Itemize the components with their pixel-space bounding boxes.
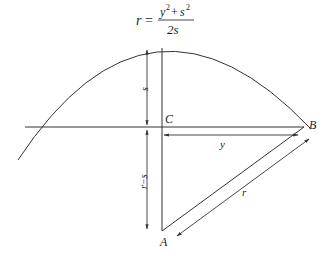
formula-denominator: 2s xyxy=(167,22,179,37)
formula-num-y-exp: 2 xyxy=(166,3,170,12)
point-label-C: C xyxy=(165,112,174,126)
formula-num-plus: + xyxy=(171,5,178,19)
formula-num-s: s xyxy=(180,5,185,19)
formula: r = y 2 + s 2 2s xyxy=(136,3,194,37)
label-r: r xyxy=(242,186,247,198)
radius-line-AB xyxy=(162,127,304,231)
point-label-A: A xyxy=(159,235,168,249)
formula-equals: = xyxy=(145,13,153,28)
formula-lhs: r xyxy=(136,13,142,28)
formula-num-s-exp: 2 xyxy=(186,3,190,12)
formula-num-y: y xyxy=(159,5,166,19)
label-y: y xyxy=(219,138,225,150)
point-label-B: B xyxy=(309,118,317,132)
label-s: s xyxy=(139,87,150,91)
label-r-minus-s: r−s xyxy=(138,174,149,189)
circle-arc xyxy=(18,51,310,160)
circle-segment-diagram: r = y 2 + s 2 2s s r−s y r C B A xyxy=(0,0,326,254)
